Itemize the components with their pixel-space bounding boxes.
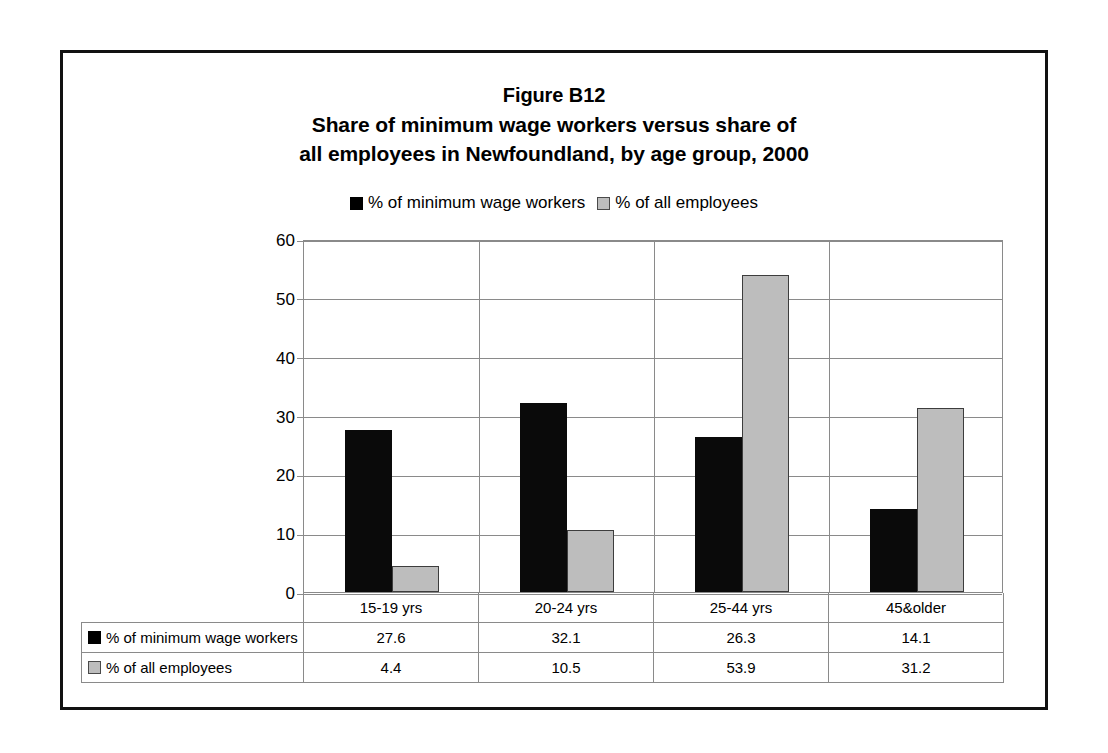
gridline-20: [304, 476, 1002, 477]
table-cell-r1-c1: 10.5: [479, 653, 654, 683]
category-separator-3: [829, 241, 830, 592]
legend-swatch-gray-icon: [597, 197, 610, 210]
y-tick-mark-60: [297, 241, 304, 242]
table-row: % of all employees4.410.553.931.2: [82, 653, 1004, 683]
table-cell-r1-c2: 53.9: [654, 653, 829, 683]
title-line-3: all employees in Newfoundland, by age gr…: [63, 139, 1045, 168]
table-category-row: 15-19 yrs20-24 yrs25-44 yrs45&older: [82, 593, 1004, 623]
table-row-label-0: % of minimum wage workers: [106, 629, 298, 646]
y-tick-label-50: 50: [276, 290, 295, 310]
chart-legend: % of minimum wage workers % of all emplo…: [63, 193, 1045, 213]
y-tick-label-10: 10: [276, 525, 295, 545]
legend-label-minimum-wage-workers: % of minimum wage workers: [368, 193, 585, 213]
table-swatch-black-icon: [88, 631, 101, 644]
category-separator-1: [479, 241, 480, 592]
y-tick-mark-30: [297, 417, 304, 418]
figure-frame: Figure B12 Share of minimum wage workers…: [60, 50, 1048, 710]
gridline-60: [304, 241, 1002, 242]
bar-15-19-yrs-series-0: [345, 430, 392, 592]
gridline-30: [304, 417, 1002, 418]
table-cell-r0-c2: 26.3: [654, 623, 829, 653]
table-row-header-0: % of minimum wage workers: [82, 623, 304, 653]
table-row-header-1: % of all employees: [82, 653, 304, 683]
y-tick-mark-10: [297, 535, 304, 536]
bar-45-older-series-0: [870, 509, 917, 592]
bar-15-19-yrs-series-1: [392, 566, 439, 592]
table-cell-r0-c0: 27.6: [304, 623, 479, 653]
category-separator-2: [654, 241, 655, 592]
data-table: 15-19 yrs20-24 yrs25-44 yrs45&older% of …: [81, 593, 1004, 683]
y-tick-label-40: 40: [276, 349, 295, 369]
bar-20-24-yrs-series-0: [520, 403, 567, 592]
table-swatch-gray-icon: [88, 661, 101, 674]
y-tick-mark-20: [297, 476, 304, 477]
y-tick-label-20: 20: [276, 466, 295, 486]
y-tick-mark-40: [297, 358, 304, 359]
bar-25-44-yrs-series-1: [742, 275, 789, 592]
title-line-1: Figure B12: [63, 81, 1045, 110]
table-category-header-3: 45&older: [829, 593, 1004, 623]
y-tick-label-30: 30: [276, 408, 295, 428]
plot-area: 0102030405060: [303, 240, 1003, 593]
table-corner-cell: [82, 593, 304, 623]
gridline-50: [304, 299, 1002, 300]
figure-title: Figure B12 Share of minimum wage workers…: [63, 81, 1045, 168]
bar-20-24-yrs-series-1: [567, 530, 614, 592]
table-category-header-0: 15-19 yrs: [304, 593, 479, 623]
legend-entry-minimum-wage-workers: % of minimum wage workers: [350, 193, 585, 213]
table-cell-r0-c3: 14.1: [829, 623, 1004, 653]
bar-25-44-yrs-series-0: [695, 437, 742, 592]
legend-entry-all-employees: % of all employees: [597, 193, 758, 213]
y-tick-mark-50: [297, 299, 304, 300]
table-row-label-1: % of all employees: [106, 659, 232, 676]
table-category-header-1: 20-24 yrs: [479, 593, 654, 623]
gridline-40: [304, 358, 1002, 359]
table-row: % of minimum wage workers27.632.126.314.…: [82, 623, 1004, 653]
bar-45-older-series-1: [917, 408, 964, 592]
plot-wrap: 0102030405060: [303, 240, 1003, 593]
table-category-header-2: 25-44 yrs: [654, 593, 829, 623]
table-cell-r1-c0: 4.4: [304, 653, 479, 683]
figure-page: { "figure": { "title_lines": [ "Figure B…: [0, 0, 1108, 753]
y-tick-label-60: 60: [276, 231, 295, 251]
table-cell-r1-c3: 31.2: [829, 653, 1004, 683]
legend-swatch-black-icon: [350, 197, 363, 210]
title-line-2: Share of minimum wage workers versus sha…: [63, 110, 1045, 139]
legend-label-all-employees: % of all employees: [615, 193, 758, 213]
table-cell-r0-c1: 32.1: [479, 623, 654, 653]
